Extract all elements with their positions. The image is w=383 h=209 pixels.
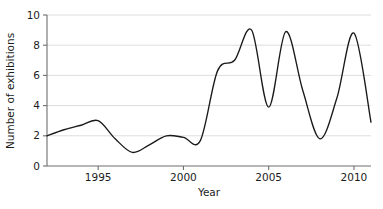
x-axis-title: Year	[197, 186, 221, 198]
x-tick-label-2005: 2005	[255, 171, 282, 183]
x-tick-label-1995: 1995	[85, 171, 112, 183]
y-tick-label-4: 4	[33, 99, 40, 111]
y-tick-label-2: 2	[33, 129, 40, 141]
y-tick-label-10: 10	[27, 9, 40, 21]
y-tick-label-6: 6	[33, 69, 40, 81]
x-tick-label-2010: 2010	[341, 171, 368, 183]
y-tick-label-8: 8	[33, 39, 40, 51]
y-axis-title: Number of exhibitions	[4, 33, 16, 149]
exhibitions-line-chart: 0246810 1995200020052010 Number of exhib…	[0, 0, 383, 209]
y-tick-label-0: 0	[33, 160, 40, 172]
x-tick-label-2000: 2000	[170, 171, 197, 183]
chart-canvas: 0246810 1995200020052010 Number of exhib…	[0, 0, 383, 209]
